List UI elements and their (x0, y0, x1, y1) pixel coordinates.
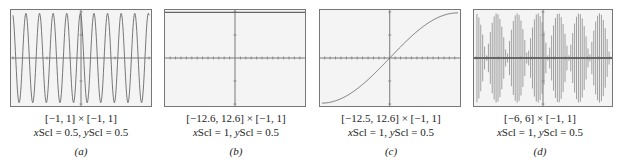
plot-a (11, 10, 151, 106)
window-caption-b: [−12.6, 12.6] × [−1, 1] (155, 112, 317, 125)
window-caption-c: [−12.5, 12.6] × [−1, 1] (310, 112, 472, 125)
scl-label: Scl = (198, 126, 224, 138)
window-caption-d: [−6, 6] × [−1, 1] (463, 112, 617, 125)
graph-window-b (164, 9, 306, 107)
scl-label: Scl = (240, 126, 266, 138)
scl-label: Scl = (353, 126, 379, 138)
graph-window-d (473, 9, 613, 107)
scale-caption-b: xScl = 1, yScl = 0.5 (155, 126, 317, 139)
plot-c (320, 10, 460, 106)
scale-caption-d: xScl = 1, yScl = 0.5 (463, 126, 617, 139)
panel-label-b: (b) (155, 145, 317, 158)
yscl-value: 0.5 (265, 126, 279, 138)
panel-c: [−12.5, 12.6] × [−1, 1] xScl = 1, yScl =… (310, 0, 472, 166)
scale-caption-c: xScl = 1, yScl = 0.5 (310, 126, 472, 139)
panel-label-d: (d) (463, 145, 617, 158)
panel-label-a: (a) (0, 145, 162, 158)
panel-d: [−6, 6] × [−1, 1] xScl = 1, yScl = 0.5 (… (463, 0, 617, 166)
graph-window-c (319, 9, 461, 107)
scl-label: Scl = (502, 126, 528, 138)
panel-b: [−12.6, 12.6] × [−1, 1] xScl = 1, yScl =… (155, 0, 317, 166)
xscl-value: 0.5 (65, 126, 79, 138)
scale-caption-a: xScl = 0.5, yScl = 0.5 (0, 126, 162, 139)
scl-label: Scl = (89, 126, 115, 138)
graph-window-a (10, 9, 152, 107)
plot-d (474, 10, 612, 106)
yscl-value: 0.5 (569, 126, 583, 138)
panel-label-c: (c) (310, 145, 472, 158)
window-caption-a: [−1, 1] × [−1, 1] (0, 112, 162, 125)
panel-a: [−1, 1] × [−1, 1] xScl = 0.5, yScl = 0.5… (0, 0, 162, 166)
plot-b (165, 10, 305, 106)
scl-label: Scl = (39, 126, 65, 138)
yscl-value: 0.5 (420, 126, 434, 138)
yscl-value: 0.5 (114, 126, 128, 138)
scl-label: Scl = (395, 126, 421, 138)
scl-label: Scl = (544, 126, 570, 138)
